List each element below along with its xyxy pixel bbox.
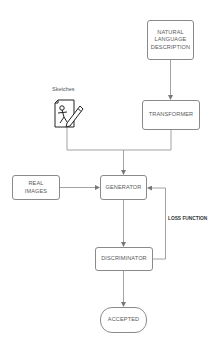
- real-images-label: REAL IMAGES: [25, 180, 47, 195]
- generator-label: GENERATOR: [106, 184, 142, 192]
- discriminator-node: DISCRIMINATOR: [95, 247, 153, 271]
- real-images-node: REAL IMAGES: [12, 175, 60, 200]
- edge-sketches-to-junction: [67, 128, 124, 150]
- discriminator-label: DISCRIMINATOR: [101, 255, 147, 263]
- sketches-label: Sketches: [52, 86, 75, 92]
- edge-transformer-to-junction: [124, 130, 172, 150]
- loss-function-label: LOSS FUNCTION: [168, 216, 207, 221]
- transformer-node: TRANSFORMER: [142, 100, 200, 130]
- sketch-document-pencil-icon: [55, 100, 83, 127]
- natural-language-description-node: NATURAL LANGUAGE DESCRIPTION: [147, 20, 194, 60]
- natural-language-description-label: NATURAL LANGUAGE DESCRIPTION: [151, 29, 190, 52]
- accepted-node: ACCEPTED: [100, 307, 147, 333]
- accepted-label: ACCEPTED: [108, 316, 139, 324]
- generator-node: GENERATOR: [100, 175, 147, 200]
- transformer-label: TRANSFORMER: [149, 111, 193, 119]
